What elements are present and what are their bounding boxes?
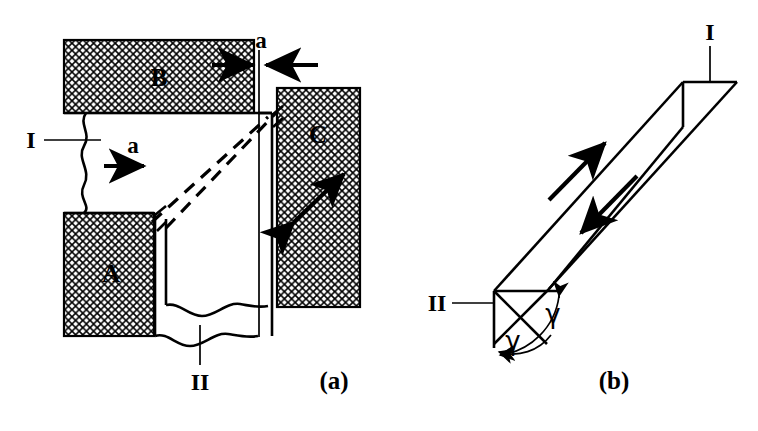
technical-diagram: B A C — [0, 0, 758, 431]
section-ii-label-b: II — [428, 290, 447, 316]
section-i-label-b: I — [705, 19, 714, 45]
block-b-label: B — [151, 64, 168, 91]
panel-a-caption: (a) — [319, 367, 348, 395]
block-a: A — [64, 213, 154, 336]
block-c: C — [277, 88, 360, 307]
block-b: B — [64, 40, 254, 113]
section-i-label: I — [26, 127, 35, 153]
angle-label-lower: γ — [505, 326, 520, 356]
clearance-label: a — [255, 28, 267, 53]
motion-label: a — [127, 133, 139, 158]
angle-label-upper: γ — [545, 299, 560, 329]
section-ii-label: II — [191, 369, 210, 395]
block-a-label: A — [102, 260, 120, 287]
figure-root: B A C — [0, 0, 758, 431]
panel-b-caption: (b) — [599, 367, 630, 395]
block-c-label: C — [309, 121, 327, 148]
